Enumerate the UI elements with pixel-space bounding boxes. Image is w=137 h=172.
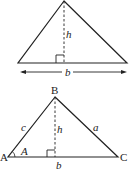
height-label: h [66,28,72,40]
arrowhead-right-icon [121,70,127,74]
side-c-label: c [21,121,26,133]
triangle-2: B A C c a h A b [0,84,127,171]
base-label: b [65,66,71,78]
triangle-diagrams: h b B A C c a h A b [0,0,137,172]
right-angle-marker [56,55,64,63]
triangle-1: h b [18,1,127,78]
vertex-c-label: C [120,151,127,163]
angle-a-label: A [20,145,28,157]
arrowhead-left-icon [20,70,26,74]
triangle-outline [18,1,127,63]
vertex-b-label: B [51,84,58,96]
height-label: h [57,123,63,135]
base-label: b [56,159,62,171]
side-a-label: a [93,121,99,133]
vertex-a-label: A [0,151,8,163]
angle-arc [12,152,15,158]
right-angle-marker [47,150,55,157]
